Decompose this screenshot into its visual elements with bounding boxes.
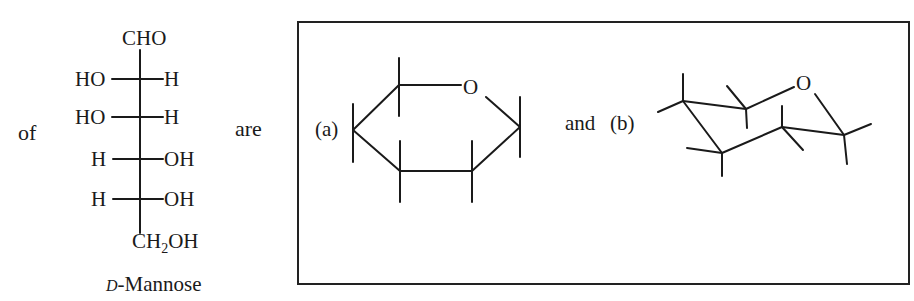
row2-right: H: [164, 107, 179, 128]
row2-left: HO: [75, 107, 105, 128]
bottom-group-ch2oh: CH2OH: [132, 231, 199, 252]
row3-left: H: [91, 149, 106, 170]
row1-left: HO: [75, 69, 105, 90]
subscript-2: 2: [161, 241, 168, 256]
row3-right: OH: [164, 149, 194, 170]
row1-right: H: [164, 69, 179, 90]
ring-b-bonds: [658, 74, 871, 176]
answer-box-frame: [298, 22, 909, 284]
ring-a-bonds: [353, 58, 520, 202]
ring-a-oxygen: O: [463, 77, 478, 98]
mannose-name: -Mannose: [118, 272, 202, 296]
word-and: and: [565, 113, 595, 134]
word-are: are: [235, 118, 262, 140]
fischer-backbone: [112, 50, 163, 233]
row4-left: H: [91, 189, 106, 210]
caption-d-mannose: D-Mannose: [106, 274, 202, 295]
label-b: (b): [610, 113, 635, 134]
ring-b-oxygen: O: [796, 73, 811, 94]
label-a: (a): [315, 119, 338, 140]
word-of: of: [18, 122, 36, 144]
top-group-cho: CHO: [122, 28, 166, 49]
ch-text: CH: [132, 229, 161, 253]
oh-text: OH: [168, 229, 198, 253]
row4-right: OH: [164, 189, 194, 210]
d-prefix: D: [106, 277, 118, 294]
